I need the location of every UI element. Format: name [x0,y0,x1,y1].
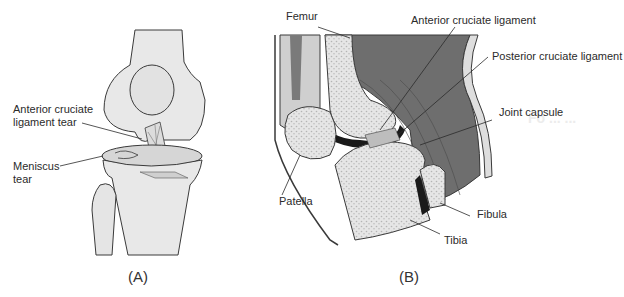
caption-b: (B) [399,268,419,285]
label-pcl: Posterior cruciate ligament [492,50,622,63]
label-meniscus-tear-line2: tear [13,173,32,186]
label-femur: Femur [286,10,318,23]
label-fibula: Fibula [477,208,507,221]
label-tibia: Tibia [444,234,467,247]
knee-anterior-illustration [0,0,270,297]
label-acl: Anterior cruciate ligament [411,14,536,27]
label-joint-capsule: Joint capsule [499,106,563,119]
caption-a: (A) [128,268,148,285]
panel-a-anterior-knee: Anterior cruciate ligament tear Meniscus… [0,0,270,297]
label-meniscus-tear-line1: Meniscus [13,160,59,173]
label-acl-tear-line1: Anterior cruciate [13,103,93,116]
label-acl-tear-line2: ligament tear [13,116,77,129]
knee-sagittal-illustration [270,0,624,297]
panel-b-sagittal-knee: Fo ... ... [270,0,624,297]
label-patella: Patella [279,195,313,208]
